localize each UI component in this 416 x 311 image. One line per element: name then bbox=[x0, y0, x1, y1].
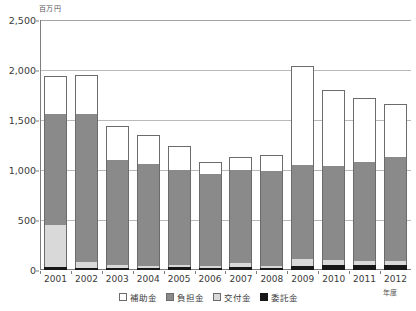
x-axis-tick-2008: 2008 bbox=[260, 271, 283, 287]
bar-segment-futankin-2006[interactable] bbox=[199, 174, 222, 266]
y-axis-tick-mark bbox=[36, 120, 39, 121]
bar-segment-hojokin-2003[interactable] bbox=[106, 126, 129, 160]
x-axis-tick-2010: 2010 bbox=[322, 271, 345, 287]
x-axis-tick-mark bbox=[287, 271, 288, 274]
bar-segment-futankin-2001[interactable] bbox=[44, 114, 67, 225]
x-axis-tick-mark bbox=[256, 271, 257, 274]
bar-segment-hojokin-2005[interactable] bbox=[168, 146, 191, 170]
y-axis-tick-label-1500: 1,500 bbox=[2, 115, 36, 126]
x-axis-tick-2007: 2007 bbox=[229, 271, 252, 287]
bar-segment-hojokin-2009[interactable] bbox=[291, 66, 314, 165]
x-axis-tick-2002: 2002 bbox=[75, 271, 98, 287]
x-axis-tick-mark bbox=[40, 271, 41, 274]
bar-column-2007[interactable] bbox=[229, 20, 252, 270]
bar-segment-hojokin-2002[interactable] bbox=[75, 75, 98, 114]
x-axis-tick-label: 2002 bbox=[75, 274, 98, 284]
x-axis-tick-2012: 2012 bbox=[384, 271, 407, 287]
y-axis-tick-mark bbox=[36, 70, 39, 71]
x-axis-tick-mark bbox=[133, 271, 134, 274]
bar-segment-futankin-2002[interactable] bbox=[75, 114, 98, 262]
y-axis-tick-label-0: 0 bbox=[2, 265, 36, 276]
x-axis-tick-label: 2012 bbox=[384, 274, 407, 284]
bar-segment-hojokin-2010[interactable] bbox=[322, 90, 345, 166]
x-axis-tick-label: 2007 bbox=[229, 274, 252, 284]
x-axis-tick-mark bbox=[195, 271, 196, 274]
x-axis-tick-2011: 2011 bbox=[353, 271, 376, 287]
bar-segment-hojokin-2001[interactable] bbox=[44, 76, 67, 115]
bar-segment-futankin-2012[interactable] bbox=[384, 157, 407, 262]
x-axis-tick-layer: 2001200220032004200520062007200820092010… bbox=[40, 271, 411, 287]
bar-segment-itakukin-2012[interactable] bbox=[384, 265, 407, 270]
bar-segment-hojokin-2004[interactable] bbox=[137, 135, 160, 164]
bar-segment-itakukin-2004[interactable] bbox=[137, 268, 160, 271]
x-axis-tick-mark bbox=[380, 271, 381, 274]
darkgray-square-icon bbox=[166, 293, 174, 301]
bar-column-2004[interactable] bbox=[137, 20, 160, 270]
bar-segment-futankin-2008[interactable] bbox=[260, 171, 283, 266]
x-axis-tick-2009: 2009 bbox=[291, 271, 314, 287]
chart-legend: 補助金負担金交付金委託金 bbox=[0, 291, 416, 303]
y-axis-tick-mark bbox=[36, 170, 39, 171]
legend-item-label: 負担金 bbox=[177, 291, 204, 303]
white-square-icon bbox=[119, 293, 127, 301]
bar-segment-hojokin-2007[interactable] bbox=[229, 157, 252, 171]
x-axis-tick-label: 2001 bbox=[44, 274, 67, 284]
bar-segment-itakukin-2010[interactable] bbox=[322, 265, 345, 270]
bar-column-2010[interactable] bbox=[322, 20, 345, 270]
bar-segment-kofukin-2001[interactable] bbox=[44, 225, 67, 267]
bar-segment-itakukin-2005[interactable] bbox=[168, 267, 191, 270]
legend-item-負担金[interactable]: 負担金 bbox=[166, 291, 204, 303]
x-axis-tick-label: 2011 bbox=[353, 274, 376, 284]
bar-segment-futankin-2010[interactable] bbox=[322, 166, 345, 260]
y-axis-tick-label-1000: 1,000 bbox=[2, 165, 36, 176]
x-axis-tick-2003: 2003 bbox=[106, 271, 129, 287]
bar-segment-futankin-2005[interactable] bbox=[168, 170, 191, 265]
bar-segment-itakukin-2001[interactable] bbox=[44, 267, 67, 270]
bar-column-2001[interactable] bbox=[44, 20, 67, 270]
legend-item-委託金[interactable]: 委託金 bbox=[260, 291, 298, 303]
bar-segment-itakukin-2006[interactable] bbox=[199, 268, 222, 271]
bar-column-2012[interactable] bbox=[384, 20, 407, 270]
bar-segment-itakukin-2007[interactable] bbox=[229, 267, 252, 270]
bar-segment-hojokin-2012[interactable] bbox=[384, 104, 407, 157]
bar-segment-itakukin-2011[interactable] bbox=[353, 265, 376, 271]
legend-item-label: 委託金 bbox=[271, 291, 298, 303]
bar-segment-itakukin-2008[interactable] bbox=[260, 268, 283, 271]
bar-segment-futankin-2004[interactable] bbox=[137, 164, 160, 266]
bar-segment-itakukin-2003[interactable] bbox=[106, 268, 129, 271]
y-axis-tick-label-2000: 2,000 bbox=[2, 65, 36, 76]
legend-item-label: 交付金 bbox=[224, 291, 251, 303]
bar-column-2005[interactable] bbox=[168, 20, 191, 270]
y-axis-tick-mark bbox=[36, 270, 39, 271]
black-square-icon bbox=[260, 293, 268, 301]
bar-column-2006[interactable] bbox=[199, 20, 222, 270]
bar-column-2009[interactable] bbox=[291, 20, 314, 270]
bar-segment-hojokin-2011[interactable] bbox=[353, 98, 376, 163]
plot-area bbox=[40, 20, 411, 270]
x-axis-tick-mark bbox=[71, 271, 72, 274]
y-axis-tick-mark bbox=[36, 20, 39, 21]
bar-segment-itakukin-2009[interactable] bbox=[291, 266, 314, 271]
bar-column-2003[interactable] bbox=[106, 20, 129, 270]
legend-item-補助金[interactable]: 補助金 bbox=[119, 291, 157, 303]
x-axis-tick-mark bbox=[225, 271, 226, 274]
y-axis-unit-label: 百万円 bbox=[39, 3, 61, 13]
bar-segment-futankin-2009[interactable] bbox=[291, 165, 314, 260]
lightgray-square-icon bbox=[213, 293, 221, 301]
bar-segment-futankin-2011[interactable] bbox=[353, 162, 376, 261]
bar-segment-futankin-2007[interactable] bbox=[229, 170, 252, 263]
bar-segment-hojokin-2008[interactable] bbox=[260, 155, 283, 171]
y-axis-tick-label-2500: 2,500 bbox=[2, 15, 36, 26]
x-axis-tick-label: 2003 bbox=[106, 274, 129, 284]
bar-column-2008[interactable] bbox=[260, 20, 283, 270]
bar-column-2002[interactable] bbox=[75, 20, 98, 270]
x-axis-tick-label: 2009 bbox=[291, 274, 314, 284]
x-axis-tick-2005: 2005 bbox=[168, 271, 191, 287]
bar-segment-hojokin-2006[interactable] bbox=[199, 162, 222, 175]
x-axis-tick-2001: 2001 bbox=[44, 271, 67, 287]
bar-segment-itakukin-2002[interactable] bbox=[75, 268, 98, 270]
bar-segment-futankin-2003[interactable] bbox=[106, 160, 129, 266]
bar-column-2011[interactable] bbox=[353, 20, 376, 270]
legend-item-交付金[interactable]: 交付金 bbox=[213, 291, 251, 303]
x-axis-tick-label: 2010 bbox=[322, 274, 345, 284]
